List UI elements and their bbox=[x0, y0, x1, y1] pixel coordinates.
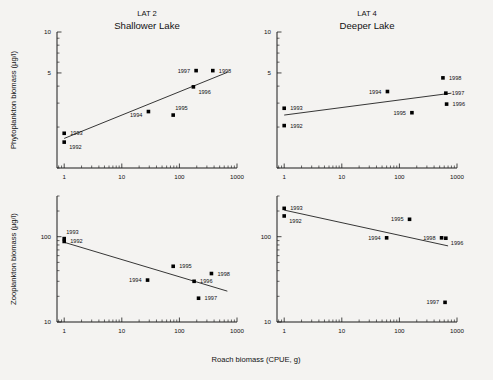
data-point-bottom-left-1996 bbox=[192, 280, 196, 284]
x-ticklabel-top-right-1000: 1000 bbox=[450, 173, 464, 180]
four-panel-scatter-figure: 1101001000510199219931994199519961997199… bbox=[0, 0, 493, 380]
trendline-top-right bbox=[284, 93, 451, 115]
x-ticklabel-bottom-left-1: 1 bbox=[62, 327, 66, 334]
point-label-top-right-1995: 1995 bbox=[393, 110, 405, 116]
point-label-bottom-right-1992: 1992 bbox=[289, 218, 301, 224]
x-ticklabel-top-left-1: 1 bbox=[62, 173, 66, 180]
x-ticklabel-bottom-right-1000: 1000 bbox=[450, 327, 464, 334]
point-label-top-right-1997: 1997 bbox=[452, 90, 464, 96]
point-label-top-left-1996: 1996 bbox=[198, 89, 210, 95]
data-point-bottom-right-1998 bbox=[440, 236, 444, 240]
point-label-bottom-right-1997: 1997 bbox=[427, 299, 439, 305]
point-label-top-left-1998: 1998 bbox=[219, 68, 231, 74]
data-point-top-right-1998 bbox=[441, 76, 445, 80]
point-label-bottom-right-1998: 1998 bbox=[423, 235, 435, 241]
x-ticklabel-bottom-left-1000: 1000 bbox=[230, 327, 244, 334]
x-ticklabel-top-left-100: 100 bbox=[174, 173, 185, 180]
data-point-top-left-1992 bbox=[62, 140, 66, 144]
data-point-bottom-right-1996 bbox=[444, 236, 448, 240]
x-ticklabel-bottom-right-10: 10 bbox=[338, 327, 345, 334]
point-label-top-left-1995: 1995 bbox=[175, 105, 187, 111]
point-label-top-left-1994: 1994 bbox=[130, 112, 142, 118]
y-ticklabel-bottom-right-100: 100 bbox=[261, 233, 272, 240]
data-point-top-left-1994 bbox=[147, 110, 151, 114]
point-label-top-left-1997: 1997 bbox=[178, 68, 190, 74]
data-point-bottom-right-1992 bbox=[282, 214, 286, 218]
x-ticklabel-bottom-left-10: 10 bbox=[118, 327, 125, 334]
y-ticklabel-top-right-5: 5 bbox=[268, 69, 272, 76]
point-label-bottom-right-1993: 1993 bbox=[290, 205, 302, 211]
data-point-bottom-right-1994 bbox=[385, 236, 389, 240]
axis-frame-top-left bbox=[57, 32, 237, 168]
data-point-top-right-1992 bbox=[282, 124, 286, 128]
data-point-top-left-1998 bbox=[211, 69, 215, 73]
y-ticklabel-top-left-5: 5 bbox=[48, 69, 52, 76]
x-axis-title: Roach biomass (CPUE, g) bbox=[211, 355, 301, 364]
point-label-bottom-left-1996: 1996 bbox=[200, 278, 212, 284]
data-point-bottom-left-1998 bbox=[210, 272, 214, 276]
y-ticklabel-bottom-left-100: 100 bbox=[41, 233, 52, 240]
point-label-bottom-left-1992: 1992 bbox=[70, 238, 82, 244]
y-axis-title-top-left: Phytoplankton biomass (µg/l) bbox=[9, 50, 18, 149]
data-point-top-right-1994 bbox=[386, 90, 390, 94]
x-ticklabel-top-right-1: 1 bbox=[282, 173, 286, 180]
y-ticklabel-top-left-10: 10 bbox=[44, 28, 51, 35]
point-label-top-left-1993: 1993 bbox=[70, 130, 82, 136]
data-point-top-right-1997 bbox=[444, 91, 448, 95]
point-label-top-right-1992: 1992 bbox=[290, 123, 302, 129]
point-label-top-right-1993: 1993 bbox=[290, 105, 302, 111]
point-label-top-left-1992: 1992 bbox=[69, 144, 81, 150]
panel-title-top-right: LAT 4 bbox=[357, 9, 377, 18]
point-label-bottom-left-1997: 1997 bbox=[205, 295, 217, 301]
data-point-top-left-1997 bbox=[194, 69, 198, 73]
figure-container: 1101001000510199219931994199519961997199… bbox=[0, 0, 493, 380]
x-ticklabel-top-left-1000: 1000 bbox=[230, 173, 244, 180]
data-point-top-right-1993 bbox=[282, 106, 286, 110]
data-point-top-right-1995 bbox=[410, 111, 414, 115]
data-point-top-left-1993 bbox=[62, 131, 66, 135]
trendline-top-left bbox=[64, 72, 227, 138]
data-point-bottom-right-1997 bbox=[443, 301, 447, 305]
x-ticklabel-top-right-10: 10 bbox=[338, 173, 345, 180]
data-point-bottom-right-1995 bbox=[408, 217, 412, 221]
data-point-bottom-right-1993 bbox=[282, 207, 286, 211]
x-ticklabel-top-left-10: 10 bbox=[118, 173, 125, 180]
point-label-top-right-1994: 1994 bbox=[369, 89, 381, 95]
data-point-top-left-1995 bbox=[171, 113, 175, 117]
y-ticklabel-top-right-10: 10 bbox=[264, 28, 271, 35]
y-ticklabel-bottom-right-10: 10 bbox=[264, 318, 271, 325]
data-point-bottom-left-1993 bbox=[62, 237, 66, 241]
data-point-bottom-left-1997 bbox=[197, 296, 201, 300]
point-label-bottom-left-1994: 1994 bbox=[129, 277, 141, 283]
data-point-top-right-1996 bbox=[445, 102, 449, 106]
panel-subtitle-top-right: Deeper Lake bbox=[340, 20, 395, 31]
y-ticklabel-bottom-left-10: 10 bbox=[44, 318, 51, 325]
y-axis-title-bottom-left: Zooplankton biomass (µg/l) bbox=[9, 213, 18, 305]
panel-subtitle-top-left: Shallower Lake bbox=[114, 20, 180, 31]
point-label-bottom-left-1993: 1993 bbox=[66, 229, 78, 235]
data-point-bottom-left-1994 bbox=[146, 278, 150, 282]
x-ticklabel-bottom-left-100: 100 bbox=[174, 327, 185, 334]
point-label-bottom-right-1994: 1994 bbox=[368, 235, 380, 241]
point-label-bottom-right-1995: 1995 bbox=[391, 216, 403, 222]
axis-frame-top-right bbox=[277, 32, 457, 168]
data-point-bottom-left-1995 bbox=[171, 264, 175, 268]
point-label-bottom-left-1995: 1995 bbox=[179, 263, 191, 269]
axis-frame-bottom-left bbox=[57, 196, 237, 322]
point-label-bottom-right-1996: 1996 bbox=[451, 240, 463, 246]
point-label-bottom-left-1998: 1998 bbox=[217, 271, 229, 277]
x-ticklabel-top-right-100: 100 bbox=[394, 173, 405, 180]
point-label-top-right-1996: 1996 bbox=[453, 101, 465, 107]
data-point-top-left-1996 bbox=[192, 85, 196, 89]
x-ticklabel-bottom-right-1: 1 bbox=[282, 327, 286, 334]
point-label-top-right-1998: 1998 bbox=[449, 75, 461, 81]
panel-title-top-left: LAT 2 bbox=[137, 9, 157, 18]
x-ticklabel-bottom-right-100: 100 bbox=[394, 327, 405, 334]
